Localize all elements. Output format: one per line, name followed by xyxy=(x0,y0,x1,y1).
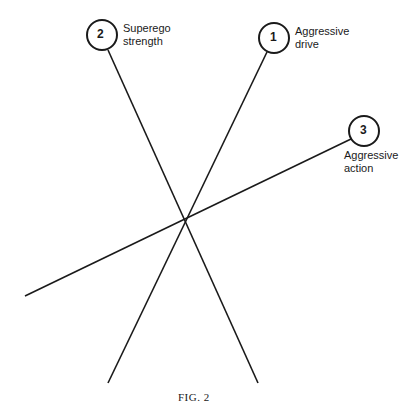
node-3-number: 3 xyxy=(360,124,367,137)
node-1-number: 1 xyxy=(270,31,277,44)
axes-diagram xyxy=(0,0,411,414)
node-1-label-line1: Aggressive xyxy=(295,25,349,38)
node-2-number: 2 xyxy=(97,28,104,41)
node-3-label: Aggressive action xyxy=(344,149,398,175)
figure-caption: FIG. 2 xyxy=(178,391,210,403)
node-2-label-line2: strength xyxy=(123,35,171,48)
node-2-label: Superego strength xyxy=(123,22,171,48)
node-1-label: Aggressive drive xyxy=(295,25,349,51)
node-1-label-line2: drive xyxy=(295,38,349,51)
node-3-label-line1: Aggressive xyxy=(344,149,398,162)
node-3-label-line2: action xyxy=(344,162,398,175)
axis-line-aggressive-action xyxy=(25,139,351,296)
axis-line-superego xyxy=(108,50,258,383)
node-2-label-line1: Superego xyxy=(123,22,171,35)
